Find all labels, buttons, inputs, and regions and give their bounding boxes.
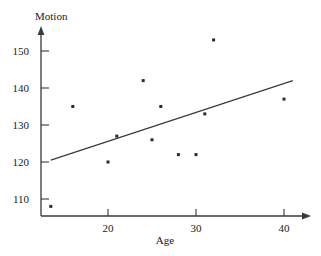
y-axis-ticks	[41, 51, 49, 199]
data-point	[195, 153, 198, 156]
data-point	[142, 79, 145, 82]
y-tick-label: 140	[13, 82, 30, 94]
data-point-group	[49, 38, 285, 208]
data-point	[177, 153, 180, 156]
data-point	[107, 161, 110, 164]
y-axis-arrow-icon	[38, 26, 45, 35]
data-point	[151, 138, 154, 141]
y-axis-title: Motion	[35, 10, 68, 22]
y-tick-label: 150	[13, 45, 30, 57]
x-axis-tick-labels: 203040	[103, 222, 291, 234]
data-point	[115, 135, 118, 138]
data-point	[203, 112, 206, 115]
y-tick-label: 110	[13, 193, 30, 205]
x-tick-label: 30	[191, 222, 203, 234]
x-axis-arrow-icon	[302, 213, 311, 220]
data-point	[71, 105, 74, 108]
plot-canvas: 110120130140150 203040 Motion Age	[0, 0, 321, 256]
y-tick-label: 130	[13, 119, 30, 131]
x-axis-title: Age	[156, 234, 174, 246]
x-tick-label: 40	[279, 222, 291, 234]
x-axis-ticks	[108, 209, 284, 216]
x-tick-label: 20	[103, 222, 115, 234]
scatter-plot-figure: 110120130140150 203040 Motion Age	[0, 0, 321, 256]
data-point	[159, 105, 162, 108]
regression-trend-line	[51, 81, 293, 161]
y-tick-label: 120	[13, 156, 30, 168]
y-axis-tick-labels: 110120130140150	[13, 45, 30, 205]
data-point	[49, 205, 52, 208]
data-point	[212, 38, 215, 41]
data-point	[283, 98, 286, 101]
